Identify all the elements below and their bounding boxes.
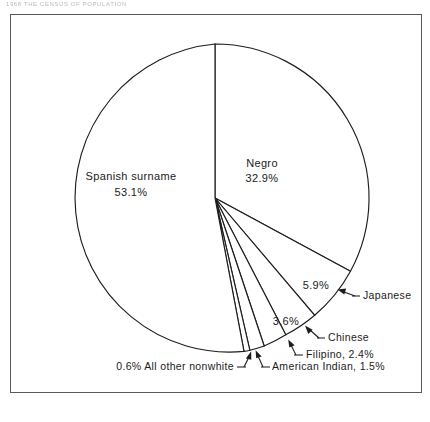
label-spanish-surname-value: 53.1% [115,186,148,198]
label-chinese-value: 3.6% [273,315,299,327]
label-japanese-value: 5.9% [303,279,329,291]
pie-chart: Negro 32.9% Spanish surname 53.1% 5.9% 3… [0,0,430,422]
label-negro-value: 32.9% [246,172,279,184]
label-american-indian-leader: American Indian, 1.5% [272,360,385,372]
label-all-other-nonwhite-leader: 0.6% All other nonwhite [116,360,234,372]
leader-all-other-nonwhite: 0.6% All other nonwhite [116,351,251,372]
label-chinese-name: Chinese [328,331,369,343]
label-negro-name: Negro [246,157,278,169]
figure-root: 1968 THE CENSUS OF POPULATION Negro 32.9… [0,0,430,422]
leader-chinese: Chinese [305,326,369,343]
label-japanese-name: Japanese [363,289,411,301]
label-filipino-leader: Filipino, 2.4% [306,348,374,360]
leader-japanese: Japanese [338,289,412,301]
label-spanish-surname-name: Spanish surname [86,170,177,182]
